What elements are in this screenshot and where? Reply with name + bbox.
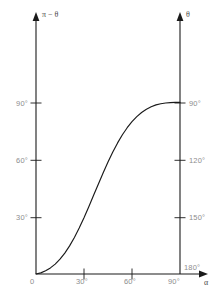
left-y-axis-label: π − θ xyxy=(42,11,58,19)
left-ytick-label-30: 30° xyxy=(8,214,28,222)
xtick-label-90: 90° xyxy=(168,278,180,286)
left-y-axis-arrow-icon xyxy=(33,12,40,21)
left-ytick-label-60: 60° xyxy=(8,157,28,165)
x-axis-label: α xyxy=(204,279,208,287)
right-ytick-label-90: 90° xyxy=(189,100,201,108)
xtick-label-60: 60° xyxy=(124,278,136,286)
x-axis-arrow-icon xyxy=(199,271,208,278)
plot-figure xyxy=(0,0,218,293)
xtick-label-30: 30° xyxy=(76,278,88,286)
xtick-label-0: 0 xyxy=(30,278,34,286)
right-ytick-label-180: 180° xyxy=(184,264,200,272)
right-y-axis-arrow-icon xyxy=(177,12,184,21)
right-ytick-label-120: 120° xyxy=(189,157,205,165)
right-ytick-label-150: 150° xyxy=(189,214,205,222)
data-curve xyxy=(36,102,180,274)
left-ytick-label-90: 90° xyxy=(8,100,28,108)
right-y-axis-label: θ xyxy=(186,11,190,19)
